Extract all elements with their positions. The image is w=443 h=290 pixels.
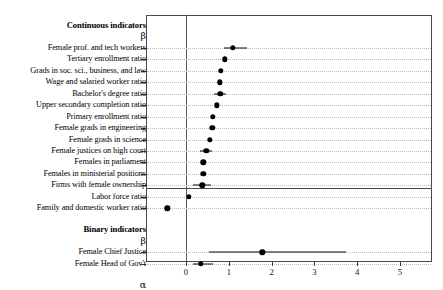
- y-axis-label: Females in ministerial positions: [43, 170, 146, 178]
- x-tick-label: 3: [312, 267, 316, 277]
- y-axis-label: Female Chief Justice: [78, 248, 146, 256]
- y-axis-label: Female grads in engineering: [54, 124, 146, 132]
- gridline: [147, 48, 431, 49]
- gridline: [147, 94, 431, 95]
- x-tick-mark: [314, 262, 315, 266]
- y-axis-label: Labor force ratio: [91, 193, 146, 201]
- y-axis-label: Tertiary enrollment ratio: [67, 55, 146, 63]
- confidence-interval: [224, 47, 247, 48]
- x-tick-label: 5: [398, 267, 402, 277]
- x-tick-label: 0: [184, 267, 188, 277]
- parameter-label-1: β: [141, 237, 146, 245]
- forest-plot-figure: Continuous indicatorsβFemale prof. and t…: [0, 0, 443, 290]
- gridline: [147, 174, 431, 175]
- gridline: [147, 59, 431, 60]
- x-tick-mark: [186, 262, 187, 266]
- x-tick-mark: [229, 262, 230, 266]
- x-tick-label: 2: [269, 267, 273, 277]
- parameter-label-0: β: [141, 32, 146, 40]
- section-header-1: Binary indicators: [83, 225, 146, 233]
- gridline: [147, 162, 431, 163]
- x-tick-label: 4: [355, 267, 359, 277]
- y-axis-label: Females in parliament: [74, 158, 146, 166]
- y-axis-label: Bachelor's degree ratio: [72, 90, 146, 98]
- y-axis-label: Grads in soc. sci., business, and law: [30, 67, 146, 75]
- y-axis-label: Upper secondary completion ratio: [36, 101, 146, 109]
- gridline: [147, 151, 431, 152]
- x-tick-mark: [400, 262, 401, 266]
- gridline: [147, 105, 431, 106]
- confidence-interval: [209, 252, 346, 253]
- section-header-0: Continuous indicators: [67, 21, 146, 29]
- gridline: [147, 264, 431, 265]
- gridline: [147, 71, 431, 72]
- estimate-marker: [198, 261, 203, 266]
- gridline: [147, 208, 431, 209]
- zero-reference-line: [186, 15, 187, 262]
- y-axis-label: Female justices on high court: [51, 147, 146, 155]
- y-axis-label: Female Head of Gov't: [75, 260, 146, 268]
- y-axis-label: Wage and salaried worker ratio: [46, 78, 146, 86]
- x-tick-label: 1: [227, 267, 231, 277]
- plot-frame: [146, 15, 432, 262]
- gridline: [147, 140, 431, 141]
- section-divider: [146, 188, 432, 189]
- y-axis-label: Family and domestic worker ratio: [37, 204, 146, 212]
- x-tick-mark: [272, 262, 273, 266]
- y-axis-label: Firms with female ownership: [51, 181, 146, 189]
- y-axis-label: Primary enrollment ratio: [66, 112, 146, 120]
- y-axis-label: Female grads in science: [69, 135, 146, 143]
- gridline: [147, 128, 431, 129]
- gridline: [147, 82, 431, 83]
- y-axis-label: Female prof. and tech workers: [48, 44, 146, 52]
- x-tick-mark: [357, 262, 358, 266]
- gridline: [147, 117, 431, 118]
- parameter-label-2: α: [140, 281, 146, 289]
- gridline: [147, 185, 431, 186]
